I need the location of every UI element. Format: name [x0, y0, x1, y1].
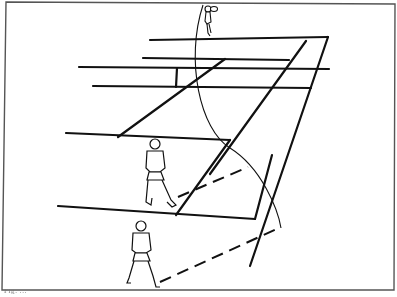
tennis-court-diagram [0, 0, 397, 297]
court-lines [58, 37, 329, 266]
player-mid [146, 139, 176, 207]
dashed-angle-lines [160, 167, 279, 282]
player-far [205, 6, 218, 36]
figure-frame [2, 2, 395, 290]
player-near [127, 221, 160, 287]
figure-caption: Fig. ... [4, 287, 394, 297]
